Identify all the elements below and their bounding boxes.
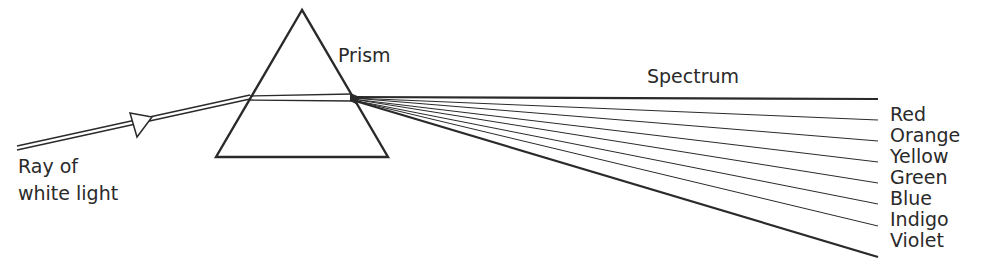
ray-label-line1: Ray of <box>18 156 78 176</box>
ray-label-line2: white light <box>18 183 118 203</box>
spectrum-label: Spectrum <box>647 66 739 86</box>
spectrum-color-yellow: Yellow <box>890 146 949 167</box>
spectrum-color-blue: Blue <box>890 188 932 209</box>
prism-label: Prism <box>338 45 391 65</box>
spectrum-color-indigo: Indigo <box>890 209 949 230</box>
spectrum-color-violet: Violet <box>890 230 944 251</box>
prism-triangle <box>216 10 388 157</box>
internal-ray <box>250 94 352 101</box>
spectrum-fan <box>352 97 878 257</box>
ray-arrowhead-icon <box>130 113 152 137</box>
spectrum-color-red: Red <box>890 104 926 125</box>
spectrum-color-orange: Orange <box>890 125 960 146</box>
diagram-drawing <box>0 0 988 275</box>
prism-diagram: Prism Spectrum Ray of white light Red Or… <box>0 0 988 275</box>
spectrum-color-green: Green <box>890 167 948 188</box>
